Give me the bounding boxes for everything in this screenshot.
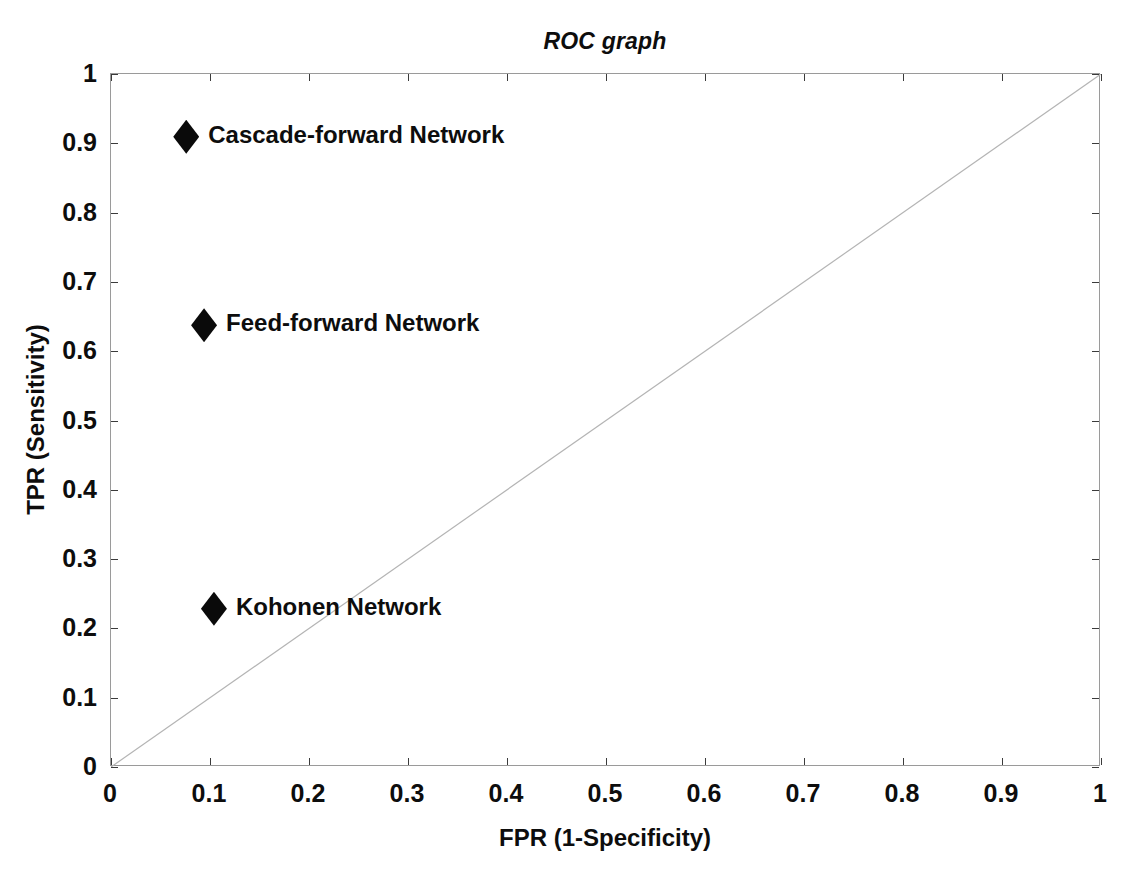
x-axis-title: FPR (1-Specificity): [110, 824, 1100, 852]
data-point-label: Cascade-forward Network: [208, 121, 504, 149]
y-tick-left: [111, 767, 118, 768]
y-tick-left: [111, 698, 118, 699]
x-tick-label: 0.7: [786, 779, 821, 808]
x-tick-bottom: [606, 758, 607, 765]
y-tick-left: [111, 351, 118, 352]
y-tick-left: [111, 490, 118, 491]
y-tick-label: 0.2: [62, 613, 97, 642]
x-tick-label: 0.2: [291, 779, 326, 808]
roc-graph-figure: ROC graph 00.10.20.30.40.50.60.70.80.91 …: [0, 0, 1134, 885]
y-tick-right: [1092, 143, 1099, 144]
x-tick-label: 0.1: [192, 779, 227, 808]
y-tick-right: [1092, 767, 1099, 768]
x-tick-top: [309, 74, 310, 81]
x-tick-bottom: [903, 758, 904, 765]
y-tick-label: 0.6: [62, 336, 97, 365]
y-tick-left: [111, 74, 118, 75]
y-tick-right: [1092, 213, 1099, 214]
x-tick-label: 0.3: [390, 779, 425, 808]
data-point-label: Feed-forward Network: [226, 309, 479, 337]
x-tick-top: [804, 74, 805, 81]
y-tick-label: 0.5: [62, 405, 97, 434]
x-tick-top: [606, 74, 607, 81]
plot-canvas: [111, 74, 1101, 767]
y-tick-left: [111, 421, 118, 422]
data-point-label: Kohonen Network: [236, 593, 441, 621]
x-tick-label: 0.8: [885, 779, 920, 808]
x-tick-bottom: [705, 758, 706, 765]
y-tick-label: 0.3: [62, 544, 97, 573]
x-tick-top: [111, 74, 112, 81]
x-tick-bottom: [210, 758, 211, 765]
x-tick-bottom: [804, 758, 805, 765]
y-tick-label: 0.1: [62, 682, 97, 711]
y-axis-title: TPR (Sensitivity): [22, 73, 62, 766]
y-tick-right: [1092, 351, 1099, 352]
x-tick-label: 0: [103, 779, 117, 808]
y-tick-right: [1092, 282, 1099, 283]
x-tick-bottom: [408, 758, 409, 765]
x-tick-bottom: [1101, 758, 1102, 765]
y-tick-right: [1092, 559, 1099, 560]
y-tick-left: [111, 559, 118, 560]
x-tick-bottom: [111, 758, 112, 765]
x-tick-top: [903, 74, 904, 81]
x-tick-top: [705, 74, 706, 81]
y-tick-left: [111, 282, 118, 283]
y-tick-right: [1092, 628, 1099, 629]
y-tick-right: [1092, 421, 1099, 422]
x-tick-label: 0.4: [489, 779, 524, 808]
y-tick-left: [111, 143, 118, 144]
y-tick-label: 0: [83, 752, 97, 781]
x-tick-top: [1002, 74, 1003, 81]
x-tick-top: [507, 74, 508, 81]
x-tick-bottom: [1002, 758, 1003, 765]
chance-diagonal-line: [111, 74, 1101, 767]
x-tick-bottom: [507, 758, 508, 765]
x-tick-top: [408, 74, 409, 81]
y-tick-label: 1: [83, 59, 97, 88]
x-tick-top: [1101, 74, 1102, 81]
plot-area: [110, 73, 1100, 766]
y-tick-left: [111, 213, 118, 214]
chart-title: ROC graph: [110, 28, 1100, 55]
y-tick-label: 0.4: [62, 474, 97, 503]
y-tick-label: 0.9: [62, 128, 97, 157]
x-tick-label: 0.5: [588, 779, 623, 808]
x-tick-label: 1: [1093, 779, 1107, 808]
y-tick-right: [1092, 490, 1099, 491]
y-tick-label: 0.7: [62, 266, 97, 295]
x-tick-top: [210, 74, 211, 81]
x-tick-label: 0.9: [984, 779, 1019, 808]
x-tick-label: 0.6: [687, 779, 722, 808]
y-tick-right: [1092, 74, 1099, 75]
y-tick-label: 0.8: [62, 197, 97, 226]
x-tick-bottom: [309, 758, 310, 765]
y-tick-left: [111, 628, 118, 629]
y-tick-right: [1092, 698, 1099, 699]
